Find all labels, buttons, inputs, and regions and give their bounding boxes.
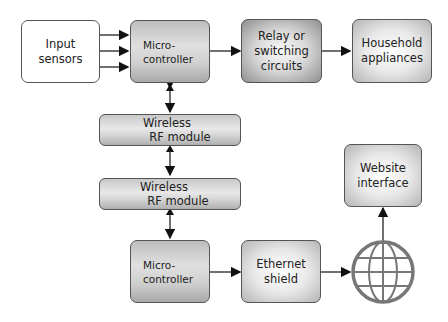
input-sensors-box: Input sensors [21, 20, 100, 83]
rf-module-bottom-box: Wireless RF module [99, 178, 241, 210]
input-sensors-label: Input sensors [38, 37, 82, 67]
rf-module-bottom-line1: Wireless [140, 180, 188, 194]
microcontroller-bottom-box: Micro- controller [130, 240, 210, 303]
household-appliances-box: Household appliances [352, 19, 432, 83]
relay-box: Relay or switching circuits [241, 19, 322, 83]
website-interface-box: Website interface [344, 144, 422, 207]
microcontroller-top-label: Micro- controller [143, 38, 193, 66]
rf-module-top-line2: RF module [149, 130, 210, 144]
household-appliances-label: Household appliances [361, 36, 423, 66]
microcontroller-bottom-label: Micro- controller [143, 258, 193, 286]
ethernet-shield-label: Ethernet shield [256, 257, 306, 287]
microcontroller-top-box: Micro- controller [130, 20, 210, 83]
rf-module-top-box: Wireless RF module [99, 114, 241, 146]
globe-icon [353, 242, 413, 302]
ethernet-shield-box: Ethernet shield [241, 240, 321, 303]
relay-label: Relay or switching circuits [254, 29, 309, 74]
rf-module-top-line1: Wireless [143, 116, 191, 130]
website-interface-label: Website interface [357, 161, 408, 191]
rf-module-bottom-line2: RF module [147, 194, 208, 208]
